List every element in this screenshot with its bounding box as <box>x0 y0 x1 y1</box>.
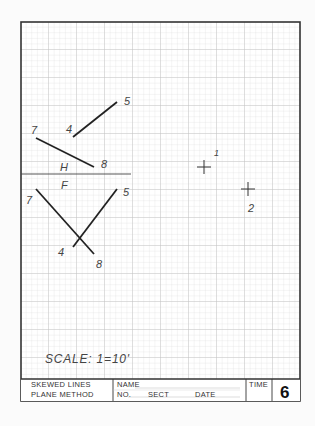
point-1-label: 1 <box>214 148 219 158</box>
front-label-5: 5 <box>123 186 130 198</box>
front-label-4: 4 <box>58 246 64 258</box>
scale-note: SCALE: 1=10' <box>45 352 130 366</box>
title-block: SKEWED LINES PLANE METHOD NAME NO. SECT … <box>21 379 300 402</box>
drawing-sheet: H F 5 4 7 8 5 7 4 8 1 2 SCALE: 1=10' <box>0 0 315 426</box>
sheet-number: 6 <box>280 383 289 402</box>
top-label-4: 4 <box>66 123 72 135</box>
top-label-8: 8 <box>101 158 108 170</box>
front-label-7: 7 <box>26 194 33 206</box>
label-h: H <box>60 161 68 173</box>
top-label-7: 7 <box>31 124 38 136</box>
no-label: NO. <box>117 390 131 399</box>
name-label: NAME <box>117 380 140 389</box>
sect-label: SECT <box>148 390 169 399</box>
top-label-5: 5 <box>124 95 131 107</box>
title-line-1: SKEWED LINES <box>31 380 91 389</box>
front-label-8: 8 <box>96 258 103 270</box>
point-2-label: 2 <box>247 202 254 214</box>
date-label: DATE <box>195 390 216 399</box>
grid-area <box>21 22 300 379</box>
time-label: TIME <box>249 380 268 389</box>
title-line-2: PLANE METHOD <box>31 390 94 399</box>
